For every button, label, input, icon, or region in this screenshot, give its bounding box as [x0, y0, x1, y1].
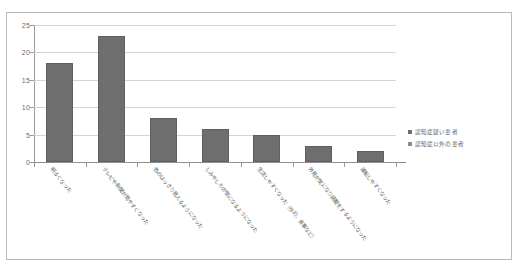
x-axis-tick — [344, 163, 345, 167]
x-axis-tick-label: しみやしわが気になるようになった — [204, 166, 259, 234]
bar — [357, 151, 384, 162]
bar — [150, 118, 177, 162]
x-axis-tick-label: 色のはっきり見えるようになった — [153, 166, 205, 230]
x-axis-tick-label: 明るくなった — [49, 166, 73, 194]
chart-legend: 認知症疑い患者認知症以外の患者 — [408, 127, 508, 151]
legend-label: 認知症以外の患者 — [415, 140, 464, 148]
legend-item: 認知症疑い患者 — [408, 127, 508, 136]
x-axis-labels: 明るくなったテレビや新聞が見やすくなった色のはっきり見えるようになったしみやしわ… — [34, 166, 406, 261]
x-axis-tick — [241, 163, 242, 167]
x-axis-tick-label: テレビや新聞が見やすくなった — [101, 166, 150, 226]
x-axis-tick-label: 運転しやすくなった — [359, 166, 392, 206]
y-axis-tick-label: 15 — [22, 76, 30, 83]
legend-item: 認知症以外の患者 — [408, 139, 508, 148]
y-axis-tick-label: 20 — [22, 49, 30, 56]
legend-swatch-icon — [408, 142, 412, 146]
bar-chart-figure: 0510152025 明るくなったテレビや新聞が見やすくなった色のはっきり見える… — [0, 0, 520, 279]
bar — [202, 129, 229, 162]
x-axis-tick — [189, 163, 190, 167]
bar — [253, 135, 280, 162]
x-axis-tick — [396, 163, 397, 167]
bar — [305, 146, 332, 162]
legend-swatch-icon — [408, 130, 412, 134]
bars-layer — [34, 25, 396, 162]
x-axis-tick — [137, 163, 138, 167]
legend-label: 認知症疑い患者 — [415, 128, 458, 136]
x-axis-tick — [293, 163, 294, 167]
y-axis-labels: 0510152025 — [14, 25, 30, 162]
x-axis-line — [34, 162, 406, 163]
bar — [46, 63, 73, 162]
x-axis-tick-label: 外見が気になり調髪をするようになった — [308, 166, 369, 242]
bar — [98, 36, 125, 162]
y-axis-tick-label: 25 — [22, 22, 30, 29]
x-axis-tick-label: 生活しやすくなった（歩行、食事など） — [256, 166, 317, 242]
x-axis-tick — [86, 163, 87, 167]
x-axis-tick — [34, 163, 35, 167]
y-axis-tick-label: 10 — [22, 104, 30, 111]
